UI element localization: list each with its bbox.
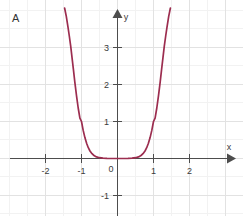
figure-panel: -2 -1 1 2 3 2 1 -1 0 x y A — [0, 0, 243, 216]
plot-canvas: -2 -1 1 2 3 2 1 -1 0 x y — [0, 0, 243, 216]
y-tick-label-neg1: -1 — [101, 191, 109, 201]
origin-label: 0 — [108, 164, 113, 174]
y-tick-label-3: 3 — [104, 43, 109, 53]
grid-major — [0, 0, 243, 216]
x-tick-label-neg2: -2 — [41, 166, 49, 176]
x-tick-label-1: 1 — [151, 166, 156, 176]
x-tick-label-2: 2 — [187, 166, 192, 176]
x-axis-label: x — [227, 142, 232, 152]
grid-minor — [0, 0, 243, 216]
x-axis-arrow — [227, 154, 236, 164]
y-tick-label-1: 1 — [104, 117, 109, 127]
y-tick-label-2: 2 — [104, 80, 109, 90]
x-tick-label-neg1: -1 — [77, 166, 85, 176]
y-axis-label: y — [124, 12, 129, 22]
y-axis — [113, 9, 123, 216]
panel-letter-label: A — [12, 12, 20, 24]
